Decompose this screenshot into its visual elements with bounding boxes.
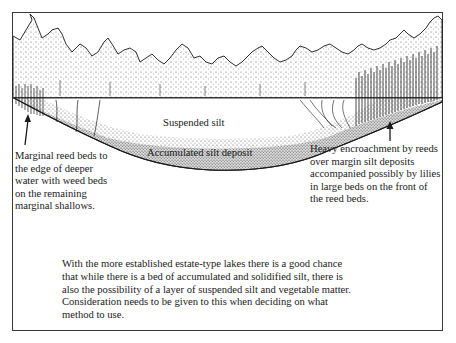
left-annotation-line: marginal shallows. xyxy=(15,200,107,213)
tree-line xyxy=(13,14,442,98)
right-annotation-line: over margin silt deposits xyxy=(310,156,440,169)
right-annotation-line: in large beds on the front of xyxy=(310,181,440,194)
left-annotation-line: the edge of deeper xyxy=(15,163,107,176)
left-annotation: Marginal reed beds to the edge of deeper… xyxy=(15,150,107,213)
left-annotation-line: on the remaining xyxy=(15,188,107,201)
left-annotation-arrow xyxy=(25,114,32,145)
caption-line: also the possibility of a layer of suspe… xyxy=(62,284,422,297)
suspended-silt-label: Suspended silt xyxy=(163,117,225,130)
right-annotation-line: the reed beds. xyxy=(310,193,440,206)
caption-line: Consideration needs to be given to this … xyxy=(62,296,422,309)
caption-line: With the more established estate-type la… xyxy=(62,258,422,271)
right-annotation: Heavy encroachment by reeds over margin … xyxy=(310,143,440,206)
accumulated-silt-label: Accumulated silt deposit xyxy=(147,147,252,160)
caption-line: that while there is a bed of accumulated… xyxy=(62,271,422,284)
right-annotation-line: accompanied possibly by lilies xyxy=(310,168,440,181)
right-annotation-line: Heavy encroachment by reeds xyxy=(310,143,440,156)
diagram-caption: With the more established estate-type la… xyxy=(62,258,422,322)
left-annotation-line: Marginal reed beds to xyxy=(15,150,107,163)
left-annotation-line: water with weed beds xyxy=(15,175,107,188)
caption-line: method to use. xyxy=(62,309,422,322)
